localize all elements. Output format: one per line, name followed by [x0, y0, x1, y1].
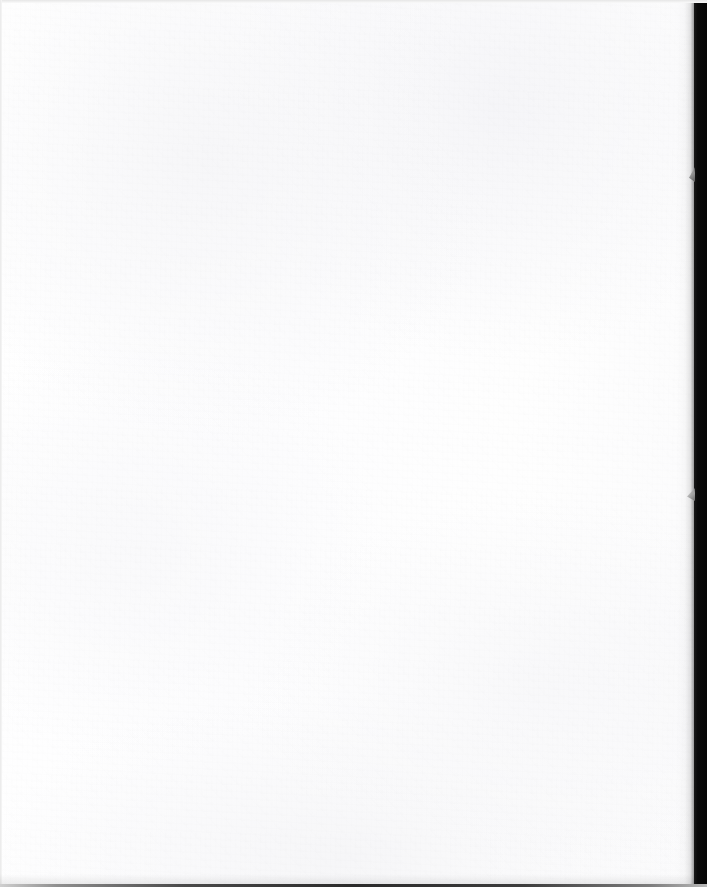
scan-edge-left: [0, 0, 2, 887]
dark-right-band: [694, 0, 707, 887]
scan-canvas: Blank scanned page: [0, 0, 707, 887]
scan-edge-top: [0, 0, 707, 3]
paper-mottle-texture: [0, 0, 694, 885]
page-sheet: Blank scanned page: [0, 0, 694, 885]
paper-grain-texture: [0, 0, 694, 885]
